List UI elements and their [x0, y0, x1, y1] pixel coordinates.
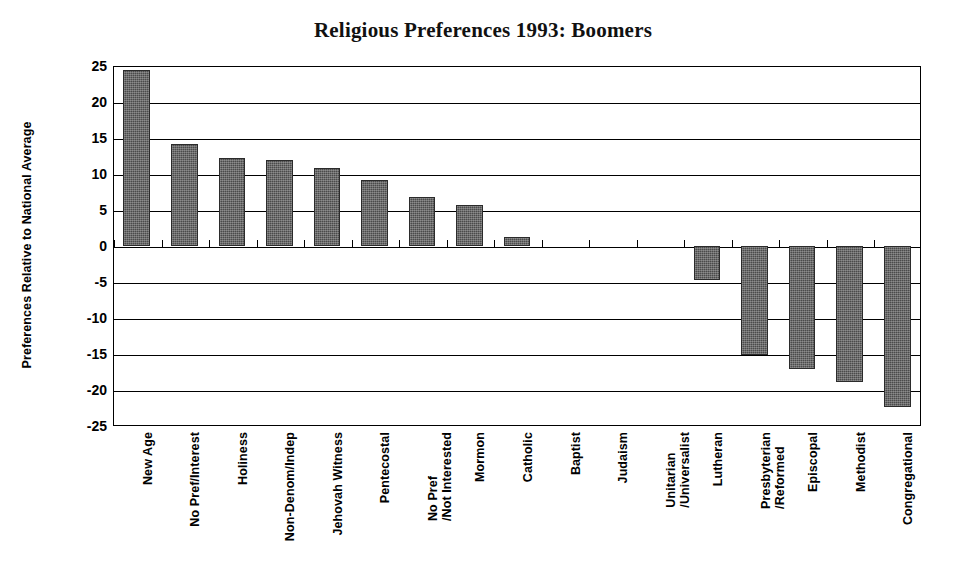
x-axis-tick-mark [732, 240, 733, 247]
x-axis-tick-mark [399, 240, 400, 247]
x-axis-category-label-text: Baptist [570, 432, 583, 475]
chart-title: Religious Preferences 1993: Boomers [0, 18, 966, 43]
gridline [114, 319, 920, 320]
y-axis-tick-labels: 2520151050-5-10-15-20-25 [55, 66, 107, 426]
gridline [114, 391, 920, 392]
gridline [114, 103, 920, 104]
x-axis-tick-mark [304, 240, 305, 247]
x-axis-tick-mark [114, 240, 115, 247]
x-axis-category-label-text: Jehovah Witness [332, 432, 345, 536]
x-axis-tick-mark [447, 240, 448, 247]
x-axis-category-label-text: Presbyterian /Reformed [760, 432, 787, 509]
y-axis-tick-label: -20 [55, 382, 107, 398]
x-axis-category-label-text: Lutheran [712, 432, 725, 486]
x-axis-tick-mark [209, 240, 210, 247]
x-axis-tick-mark [827, 240, 828, 247]
x-axis-tick-mark [589, 240, 590, 247]
y-axis-tick-label: -5 [55, 274, 107, 290]
x-axis-category-label-text: Mormon [474, 432, 487, 482]
x-axis-category-label-text: Holiness [237, 432, 250, 485]
x-axis-tick-mark [684, 240, 685, 247]
y-axis-tick-label: 5 [55, 202, 107, 218]
y-axis-title-label: Preferences Relative to National Average [20, 122, 34, 369]
x-axis-category-label-text: Pentecostal [379, 432, 392, 503]
gridline [114, 211, 920, 212]
x-axis-tick-mark [162, 240, 163, 247]
x-axis-tick-mark [920, 240, 921, 247]
y-axis-tick-label: 25 [55, 58, 107, 74]
gridline [114, 175, 920, 176]
x-axis-category-label-text: Judaism [617, 432, 630, 483]
y-axis-tick-label: -10 [55, 310, 107, 326]
gridline [114, 139, 920, 140]
x-axis-tick-mark [257, 240, 258, 247]
chart-figure: Religious Preferences 1993: Boomers Pref… [0, 0, 966, 588]
y-axis-title: Preferences Relative to National Average [14, 62, 40, 428]
x-axis-category-label-text: Catholic [522, 432, 535, 482]
x-axis-tick-mark [542, 240, 543, 247]
gridline [114, 355, 920, 356]
x-axis-category-label-text: No Pref /Not Interested [427, 432, 454, 521]
y-axis-tick-label: 10 [55, 166, 107, 182]
x-axis-category-label-text: Congregational [902, 432, 915, 525]
y-axis-tick-label: 20 [55, 94, 107, 110]
x-axis-tick-mark [779, 240, 780, 247]
x-axis-category-label-text: No Pref/Interest [189, 432, 202, 527]
x-axis-tick-mark [494, 240, 495, 247]
x-axis-category-label-text: Non-Denom/Indep [284, 432, 297, 541]
y-axis-tick-label: 0 [55, 238, 107, 254]
y-axis-tick-label: 15 [55, 130, 107, 146]
x-axis-category-labels: New AgeNo Pref/InterestHolinessNon-Denom… [113, 432, 921, 582]
x-axis-category-label-text: Unitarian /Universalist [665, 432, 692, 508]
plot-area [113, 66, 921, 426]
gridline [114, 283, 920, 284]
x-axis-tick-mark [874, 240, 875, 247]
x-axis-category-label-text: Methodist [855, 432, 868, 492]
zero-axis-line [114, 247, 920, 248]
x-axis-category-label-text: Episcopal [807, 432, 820, 492]
y-axis-tick-label: -15 [55, 346, 107, 362]
y-axis-tick-label: -25 [55, 418, 107, 434]
x-axis-tick-mark [352, 240, 353, 247]
x-axis-tick-mark [637, 240, 638, 247]
x-axis-category-label-text: New Age [142, 432, 155, 485]
